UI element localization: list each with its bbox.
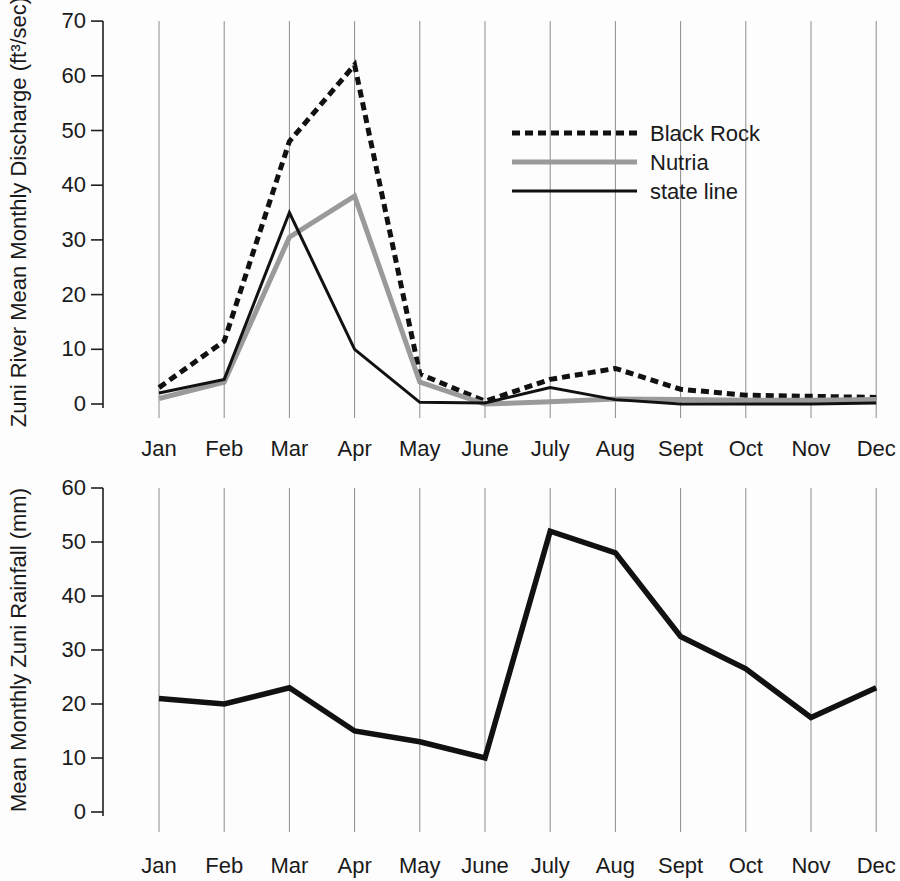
y-tick-label: 20: [62, 691, 86, 716]
x-tick-label: Jan: [141, 853, 176, 878]
legend-label-nutria: Nutria: [650, 150, 709, 175]
rainfall-chart: JanFebMarAprMayJuneJulyAugSeptOctNovDec0…: [62, 475, 896, 878]
x-tick-label: Oct: [729, 436, 763, 461]
y-tick-label: 10: [62, 336, 86, 361]
x-tick-label: Aug: [596, 436, 635, 461]
discharge-chart: JanFebMarAprMayJuneJulyAugSeptOctNovDec0…: [62, 8, 896, 461]
series-line-nutria: [159, 196, 876, 404]
y-tick-label: 40: [62, 172, 86, 197]
series-line-state-line: [159, 213, 876, 404]
y-tick-label: 50: [62, 529, 86, 554]
x-tick-label: Nov: [791, 853, 830, 878]
x-tick-label: Aug: [596, 853, 635, 878]
x-tick-label: June: [461, 853, 509, 878]
rainfall-y-axis-title: Mean Monthly Zuni Rainfall (mm): [6, 488, 31, 812]
series-line-black-rock: [159, 65, 876, 401]
y-tick-label: 0: [74, 391, 86, 416]
figure-canvas: JanFebMarAprMayJuneJulyAugSeptOctNovDec0…: [0, 0, 900, 881]
x-tick-label: Feb: [205, 853, 243, 878]
x-tick-label: Mar: [270, 436, 308, 461]
x-tick-label: July: [531, 853, 570, 878]
y-tick-label: 30: [62, 637, 86, 662]
x-tick-label: Dec: [857, 853, 896, 878]
y-tick-label: 0: [74, 799, 86, 824]
y-tick-label: 10: [62, 745, 86, 770]
x-tick-label: Apr: [337, 436, 371, 461]
series-line-zuni-rainfall: [159, 531, 876, 758]
x-tick-label: June: [461, 436, 509, 461]
legend-label-black-rock: Black Rock: [650, 121, 761, 146]
y-tick-label: 70: [62, 8, 86, 33]
y-tick-label: 50: [62, 118, 86, 143]
y-tick-label: 60: [62, 63, 86, 88]
legend-label-state-line: state line: [650, 179, 738, 204]
x-tick-label: Sept: [658, 853, 703, 878]
x-tick-label: July: [531, 436, 570, 461]
x-tick-label: Nov: [791, 436, 830, 461]
x-tick-label: May: [399, 436, 441, 461]
y-tick-label: 30: [62, 227, 86, 252]
x-tick-label: Jan: [141, 436, 176, 461]
x-tick-label: Feb: [205, 436, 243, 461]
x-tick-label: Dec: [857, 436, 896, 461]
x-tick-label: Oct: [729, 853, 763, 878]
x-tick-label: Sept: [658, 436, 703, 461]
x-tick-label: Apr: [337, 853, 371, 878]
x-tick-label: Mar: [270, 853, 308, 878]
y-tick-label: 20: [62, 282, 86, 307]
discharge-rainfall-figure: JanFebMarAprMayJuneJulyAugSeptOctNovDec0…: [0, 0, 900, 881]
y-tick-label: 40: [62, 583, 86, 608]
discharge-y-axis-title: Zuni River Mean Monthly Discharge (ft³/s…: [6, 0, 31, 427]
x-tick-label: May: [399, 853, 441, 878]
y-tick-label: 60: [62, 475, 86, 500]
